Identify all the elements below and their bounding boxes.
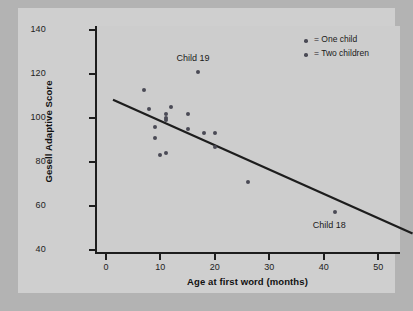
x-tick-label: 40 <box>309 262 339 272</box>
legend-marker-icon <box>304 39 308 43</box>
x-tick-label: 30 <box>254 262 284 272</box>
y-tick-mark <box>89 29 95 31</box>
x-axis-title: Age at first word (months) <box>95 276 400 287</box>
point-annotation: Child 19 <box>176 53 209 63</box>
x-tick-label: 20 <box>200 262 230 272</box>
data-point <box>164 151 168 155</box>
x-tick-mark <box>323 254 325 260</box>
x-tick-label: 50 <box>363 262 393 272</box>
y-tick-mark <box>89 117 95 119</box>
chart-figure: 406080100120140 01020304050 Gesell Adapt… <box>0 0 413 311</box>
x-tick-mark <box>159 254 161 260</box>
data-point <box>153 125 157 129</box>
data-point <box>153 136 157 140</box>
y-tick-label: 40 <box>6 244 46 254</box>
legend-label: = One child <box>314 34 357 44</box>
x-tick-label: 0 <box>91 262 121 272</box>
y-axis-title: Gesell Adaptive Score <box>43 42 54 222</box>
data-point <box>164 112 168 116</box>
data-point <box>186 112 190 116</box>
y-tick-mark <box>89 73 95 75</box>
data-point <box>142 88 146 92</box>
x-tick-label: 10 <box>145 262 175 272</box>
chart-panel: 406080100120140 01020304050 Gesell Adapt… <box>18 8 395 293</box>
y-axis-line <box>95 26 97 254</box>
data-point <box>246 180 250 184</box>
y-tick-mark <box>89 205 95 207</box>
y-tick-label: 60 <box>6 200 46 210</box>
x-axis-line <box>95 252 400 254</box>
legend-item-one-child: = One child <box>304 34 409 48</box>
y-tick-label: 80 <box>6 156 46 166</box>
data-point <box>213 145 217 149</box>
chart-legend: = One child = Two children <box>304 34 409 62</box>
y-tick-mark <box>89 161 95 163</box>
data-point <box>186 127 190 131</box>
y-tick-label: 120 <box>6 68 46 78</box>
x-tick-mark <box>377 254 379 260</box>
x-tick-mark <box>105 254 107 260</box>
legend-marker-icon <box>304 53 308 57</box>
y-tick-mark <box>89 249 95 251</box>
x-tick-mark <box>268 254 270 260</box>
point-annotation: Child 18 <box>313 220 346 230</box>
x-tick-mark <box>214 254 216 260</box>
y-tick-label: 140 <box>6 24 46 34</box>
legend-label: = Two children <box>314 48 369 58</box>
y-tick-label: 100 <box>6 112 46 122</box>
legend-item-two-children: = Two children <box>304 48 409 62</box>
